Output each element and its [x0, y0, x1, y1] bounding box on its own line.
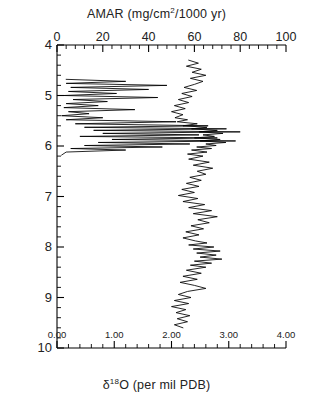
tick-labels-layer: 0204060801000.001.002.003.004.0045678910: [38, 30, 297, 355]
svg-text:6: 6: [45, 138, 52, 153]
svg-text:7: 7: [45, 189, 52, 204]
svg-text:60: 60: [187, 30, 201, 44]
svg-text:5: 5: [45, 88, 52, 103]
svg-text:40: 40: [142, 30, 156, 44]
svg-text:80: 80: [233, 30, 247, 44]
svg-text:8: 8: [45, 239, 52, 254]
svg-text:10: 10: [38, 340, 52, 355]
svg-text:20: 20: [96, 30, 110, 44]
svg-text:3.00: 3.00: [220, 329, 239, 340]
figure-panel: AMAR (mg/cm2/1000 yr) δ18O (per mil PDB)…: [0, 0, 313, 403]
svg-text:9: 9: [45, 290, 52, 305]
svg-text:4.00: 4.00: [277, 329, 296, 340]
plot-area: 0204060801000.001.002.003.004.0045678910: [0, 0, 313, 403]
svg-text:1.00: 1.00: [105, 329, 124, 340]
svg-text:0.00: 0.00: [48, 329, 67, 340]
svg-text:0: 0: [54, 30, 61, 44]
svg-text:4: 4: [45, 37, 52, 52]
svg-text:2.00: 2.00: [162, 329, 181, 340]
series-layer: [62, 60, 241, 328]
axes-layer: [57, 45, 286, 348]
svg-text:100: 100: [276, 30, 297, 44]
